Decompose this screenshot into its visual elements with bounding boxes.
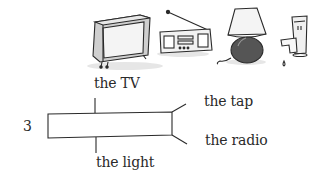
connector-diagram xyxy=(0,0,321,183)
branch-right-top xyxy=(172,104,186,112)
label-the-tap: the tap xyxy=(204,94,253,108)
exercise-number: 3 xyxy=(23,119,32,133)
label-the-tv: the TV xyxy=(94,76,140,90)
label-the-light: the light xyxy=(96,155,154,169)
answer-box xyxy=(48,112,172,138)
label-the-radio: the radio xyxy=(205,133,268,147)
branch-right-bottom xyxy=(172,135,187,144)
